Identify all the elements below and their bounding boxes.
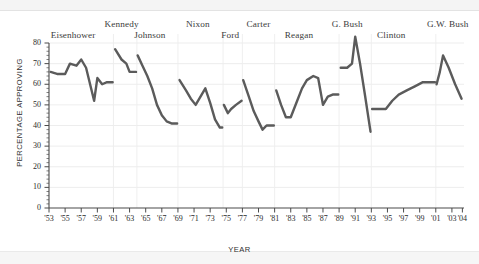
president-label-johnson: Johnson (134, 30, 165, 40)
president-label-g-w-bush: G.W. Bush (427, 19, 469, 29)
president-label-eisenhower: Eisenhower (51, 30, 96, 40)
y-axis-ticks (45, 43, 50, 208)
term-boundary-lines (113, 34, 435, 208)
president-label-carter: Carter (247, 19, 271, 29)
president-label-nixon: Nixon (186, 19, 210, 29)
y-tick-label: 80 (19, 38, 41, 47)
approval-segment-kennedy (115, 49, 136, 72)
approval-segment-nixon (180, 80, 223, 127)
president-label-reagan: Reagan (285, 30, 313, 40)
president-label-kennedy: Kennedy (105, 19, 139, 29)
y-tick-label: 0 (19, 203, 41, 212)
x-axis-ticks (49, 208, 462, 213)
approval-segment-ford (224, 101, 242, 113)
president-labels: EisenhowerKennedyJohnsonNixonFordCarterR… (0, 0, 479, 40)
president-label-ford: Ford (221, 30, 239, 40)
approval-segment-eisenhower (51, 60, 113, 101)
x-tick-label: '04 (453, 214, 471, 223)
approval-segment-g-w-bush (437, 55, 462, 98)
president-label-clinton: Clinton (377, 30, 406, 40)
x-axis-title: YEAR (0, 245, 479, 254)
approval-segment-johnson (138, 55, 177, 123)
approval-segment-reagan (276, 76, 338, 117)
president-label-g-bush: G. Bush (332, 19, 363, 29)
y-tick-label: 10 (19, 182, 41, 191)
y-axis-title: PERCENTAGE APPROVING (15, 58, 24, 168)
